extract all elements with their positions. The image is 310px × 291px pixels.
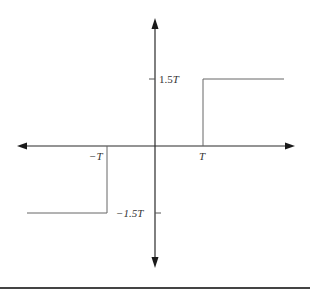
bottom-rule-divider <box>0 287 310 289</box>
x-axis <box>17 143 295 150</box>
x-label-pos-T: T <box>199 150 205 162</box>
diagram-canvas <box>0 0 310 291</box>
x-label-neg-var: T <box>96 150 102 162</box>
y-label-neg-number: −1.5 <box>116 207 137 219</box>
y-label-neg-var: T <box>137 207 143 219</box>
x-label-neg-T: −T <box>89 150 103 162</box>
x-axis-right-arrow-icon <box>285 143 295 150</box>
x-axis-left-arrow-icon <box>17 143 27 150</box>
y-label-pos-1-5T: 1.5T <box>159 73 179 85</box>
y-axis-up-arrow-icon <box>152 18 159 29</box>
y-axis <box>152 18 159 268</box>
step-function-diagram: 1.5T −1.5T −T T <box>0 0 310 291</box>
y-axis-down-arrow-icon <box>152 257 159 268</box>
y-label-neg-1-5T: −1.5T <box>116 207 143 219</box>
x-label-pos-var: T <box>199 150 205 162</box>
y-label-pos-var: T <box>173 73 179 85</box>
y-label-pos-number: 1.5 <box>159 73 173 85</box>
curve-upper-step <box>203 79 284 146</box>
